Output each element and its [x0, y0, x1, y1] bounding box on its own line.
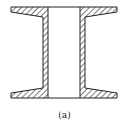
right-section-hatched: [80, 7, 117, 98]
left-section-hatched: [11, 7, 48, 98]
figure-caption: (a): [0, 110, 129, 120]
